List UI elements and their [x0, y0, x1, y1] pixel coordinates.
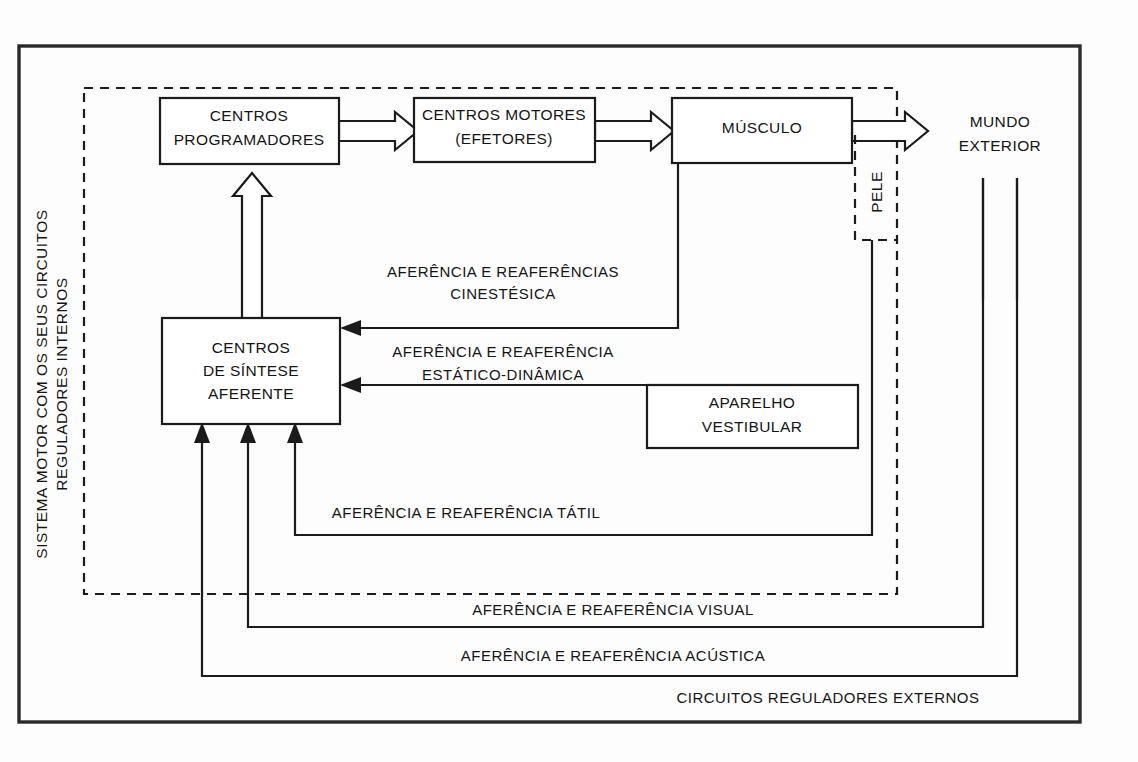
box-sintese-line2: DE SÍNTESE	[203, 362, 299, 379]
arrowhead-kinesthetic	[340, 320, 361, 336]
arrow-musculo-to-mundo-exterior	[852, 112, 928, 150]
box-musculo[interactable]: MÚSCULO	[672, 98, 852, 163]
mundo-exterior-line1: MUNDO	[970, 113, 1031, 130]
box-centros-programadores[interactable]: CENTROS PROGRAMADORES	[160, 98, 339, 164]
label-kinesthetic-line2: CINESTÉSICA	[450, 285, 556, 302]
arrow-programadores-to-motores	[339, 112, 418, 150]
box-centros-motores-line2: (EFETORES)	[455, 130, 553, 147]
label-static-dynamic-line1: AFERÊNCIA E REAFERÊNCIA	[392, 343, 614, 360]
label-visual: AFERÊNCIA E REAFERÊNCIA VISUAL	[472, 601, 754, 618]
label-acoustic: AFERÊNCIA E REAFERÊNCIA ACÚSTICA	[461, 647, 765, 664]
box-centros-sintese-aferente[interactable]: CENTROS DE SÍNTESE AFERENTE	[162, 318, 340, 424]
box-aparelho-vestibular-line1: APARELHO	[709, 394, 795, 411]
vertical-title-line2: REGULADORES INTERNOS	[53, 277, 70, 490]
label-static-dynamic-line2: ESTÁTICO-DINÂMICA	[422, 366, 584, 383]
vertical-title-line1: SISTEMA MOTOR COM OS SEUS CIRCUITOS	[33, 209, 50, 558]
box-sintese-line1: CENTROS	[212, 339, 291, 356]
link-kinesthetic-path	[358, 163, 678, 328]
motor-system-diagram: SISTEMA MOTOR COM OS SEUS CIRCUITOS REGU…	[0, 0, 1138, 762]
label-kinesthetic-line1: AFERÊNCIA E REAFERÊNCIAS	[387, 263, 619, 280]
mundo-exterior-line2: EXTERIOR	[959, 137, 1041, 154]
arrowhead-static-dynamic	[340, 377, 361, 393]
arrowhead-visual	[240, 422, 256, 443]
figure-canvas: SISTEMA MOTOR COM OS SEUS CIRCUITOS REGU…	[0, 0, 1138, 762]
box-centros-motores[interactable]: CENTROS MOTORES (EFETORES)	[414, 98, 595, 162]
arrow-motores-to-musculo	[595, 112, 674, 150]
box-centros-programadores-line1: CENTROS	[210, 107, 289, 124]
box-centros-programadores-line2: PROGRAMADORES	[174, 131, 325, 148]
box-musculo-label: MÚSCULO	[722, 119, 802, 136]
arrow-sintese-to-programadores	[233, 173, 271, 318]
box-aparelho-vestibular-line2: VESTIBULAR	[702, 418, 802, 435]
label-tactile: AFERÊNCIA E REAFERÊNCIA TÁTIL	[332, 504, 600, 521]
arrowhead-acoustic	[194, 422, 210, 443]
arrowhead-tactile	[287, 422, 303, 443]
box-sintese-line3: AFERENTE	[208, 385, 294, 402]
box-centros-motores-line1: CENTROS MOTORES	[422, 106, 586, 123]
pele-label: PELE	[868, 171, 885, 213]
box-aparelho-vestibular[interactable]: APARELHO VESTIBULAR	[647, 385, 858, 448]
label-external-circuits: CIRCUITOS REGULADORES EXTERNOS	[676, 689, 979, 706]
